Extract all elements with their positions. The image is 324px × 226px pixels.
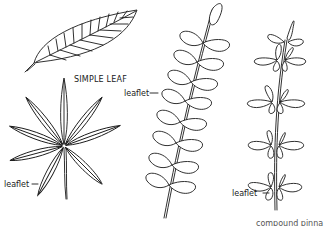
- botanical-diagram: SIMPLE LEAF leaflet leaflet leaflet comp…: [0, 0, 324, 226]
- compound-pinna-leaflet-label: leaflet: [232, 189, 257, 198]
- compound-pinna-leaf-icon: [247, 21, 305, 210]
- compound-pinna-caption: compound pinna: [256, 219, 323, 226]
- pinnate-leaflet-label: leaflet: [124, 89, 149, 98]
- simple-leaf-label: SIMPLE LEAF: [74, 75, 127, 84]
- palmate-leaflet-label: leaflet: [4, 180, 29, 189]
- leaf-drawings: [0, 0, 324, 226]
- simple-leaf-icon: [25, 10, 137, 72]
- pinnate-leaf-icon: [146, 4, 230, 218]
